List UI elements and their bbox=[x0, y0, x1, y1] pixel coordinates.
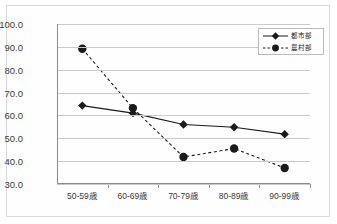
legend-label-urban: 都市部 bbox=[291, 30, 312, 42]
gridline bbox=[57, 184, 310, 185]
data-point-diamond bbox=[179, 120, 187, 128]
data-point-diamond bbox=[281, 130, 289, 138]
gridline bbox=[57, 70, 310, 71]
gridline bbox=[57, 161, 310, 162]
gridline bbox=[57, 138, 310, 139]
x-axis-tick-label: 90-99歳 bbox=[269, 189, 300, 201]
series-line bbox=[82, 49, 284, 168]
y-axis-tick-label: 30.0 bbox=[0, 179, 23, 190]
y-axis-tick-label: 90.0 bbox=[0, 41, 23, 52]
x-axis-tick-label: 80-89歳 bbox=[219, 189, 250, 201]
x-axis-line bbox=[57, 183, 310, 184]
gridline bbox=[57, 24, 310, 25]
x-axis-tick-label: 60-69歳 bbox=[118, 189, 149, 201]
x-axis-tick-label: 70-79歳 bbox=[168, 189, 199, 201]
data-point-circle bbox=[281, 164, 289, 172]
gridline bbox=[57, 93, 310, 94]
data-point-diamond bbox=[78, 101, 86, 109]
gridline bbox=[57, 115, 310, 116]
chart-figure: 100.090.080.070.060.050.040.030.0 50-59歳… bbox=[0, 0, 337, 224]
y-axis-tick-label: 60.0 bbox=[0, 110, 23, 121]
chart-legend: 都市部 農村部 bbox=[258, 28, 324, 55]
legend-swatch-rural-icon bbox=[262, 42, 289, 54]
data-point-circle bbox=[230, 144, 238, 152]
y-axis-tick-label: 40.0 bbox=[0, 156, 23, 167]
data-point-circle bbox=[179, 153, 187, 161]
y-axis-tick-label: 50.0 bbox=[0, 133, 23, 144]
legend-entry-urban: 都市部 bbox=[262, 30, 322, 42]
legend-entry-rural: 農村部 bbox=[262, 42, 322, 54]
y-axis-line bbox=[57, 24, 58, 184]
y-axis-tick-label: 80.0 bbox=[0, 64, 23, 75]
data-point-circle bbox=[129, 104, 137, 112]
y-axis-tick-label: 100.0 bbox=[0, 19, 23, 30]
legend-swatch-urban-icon bbox=[262, 30, 289, 42]
data-point-circle bbox=[78, 44, 86, 52]
data-point-diamond bbox=[230, 123, 238, 131]
legend-label-rural: 農村部 bbox=[291, 42, 312, 54]
y-axis-tick-label: 70.0 bbox=[0, 87, 23, 98]
x-axis-tick-mark bbox=[310, 184, 311, 188]
x-axis-tick-label: 50-59歳 bbox=[67, 189, 98, 201]
series-line bbox=[82, 106, 284, 135]
